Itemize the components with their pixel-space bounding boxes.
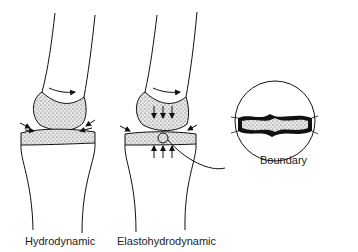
- lubrication-diagram: [0, 0, 358, 252]
- hydrodynamic-joint: [20, 13, 95, 233]
- boundary-label: Boundary: [260, 154, 307, 166]
- elastohydrodynamic-joint: [120, 12, 225, 232]
- boundary-inset: [231, 81, 318, 161]
- hydrodynamic-label: Hydrodynamic: [25, 235, 95, 247]
- elastohydrodynamic-label: Elastohydrodynamic: [117, 235, 216, 247]
